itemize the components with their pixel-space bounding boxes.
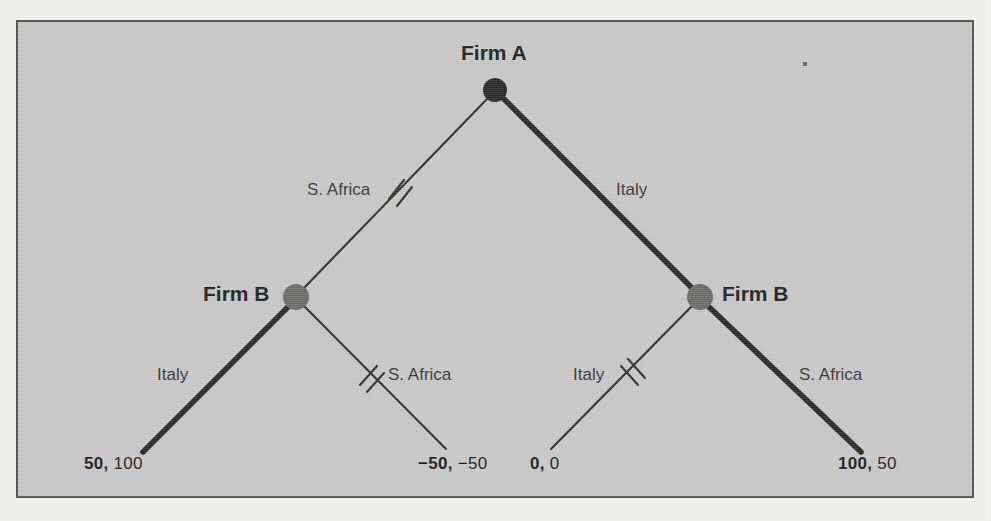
- action-label-left-b-s-africa: S. Africa: [388, 366, 451, 383]
- payoff-firm-a: −50,: [418, 454, 453, 473]
- payoff-outcome-4: 100, 50: [838, 455, 897, 472]
- payoff-firm-b: 100: [114, 454, 143, 473]
- payoff-firm-b: 50: [877, 454, 897, 473]
- payoff-outcome-1: 50, 100: [84, 455, 143, 472]
- action-label-left-b-italy: Italy: [157, 366, 188, 383]
- node-label-firm-b-left: Firm B: [203, 283, 270, 304]
- payoff-firm-a: 0,: [530, 454, 545, 473]
- game-tree-figure: Firm A Firm B Firm B S. Africa Italy Ita…: [0, 0, 991, 521]
- action-label-right-b-s-africa: S. Africa: [799, 366, 862, 383]
- payoff-outcome-2: −50, −50: [418, 455, 488, 472]
- payoff-firm-a: 100,: [838, 454, 872, 473]
- node-label-firm-a: Firm A: [461, 42, 527, 63]
- payoff-outcome-3: 0, 0: [530, 455, 560, 472]
- payoff-firm-b: 0: [550, 454, 560, 473]
- payoff-firm-a: 50,: [84, 454, 109, 473]
- payoff-firm-b: −50: [458, 454, 488, 473]
- action-label-right-b-italy: Italy: [573, 366, 604, 383]
- figure-panel: [16, 20, 974, 498]
- action-label-root-s-africa: S. Africa: [307, 181, 370, 198]
- action-label-root-italy: Italy: [616, 181, 647, 198]
- node-label-firm-b-right: Firm B: [722, 283, 789, 304]
